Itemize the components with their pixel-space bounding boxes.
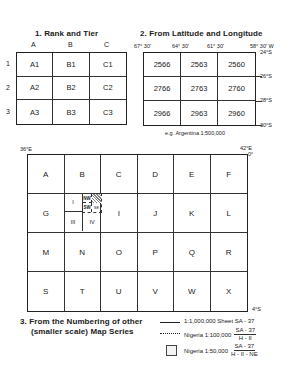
quadrant-iii: III [64,212,83,231]
tick-mark [256,76,262,77]
longitude-label: 67° 30' [134,43,151,49]
grid-cell: 2566 [144,53,181,77]
legend-dotted-line-icon [160,333,180,334]
row-label-2: 2 [6,84,10,91]
sub-quadrant-ne-hatched [92,194,101,203]
grid-cell: D [138,155,175,194]
longitude-label: 61° 30' [207,43,224,49]
grid-cell: B1 [53,53,89,77]
sheet-numbering-grid: A B C D E F G I J K L M N O P Q R S T U … [27,154,248,312]
tick-mark [256,125,262,126]
grid-cell: B [65,155,102,194]
grid-cell: A [28,155,65,194]
legend-item-2: Nigeria 1:100,000 SA - 37 H - II [184,327,256,342]
grid-cell: L [211,194,248,233]
grid-cell: C3 [90,100,126,124]
grid-cell: O [101,233,138,272]
grid-cell: 2563 [181,53,218,77]
row-label-3: 3 [6,108,10,115]
grid-cell: U [101,272,138,311]
grid-cell: 2760 [218,77,255,101]
column-label-c: C [104,41,109,48]
grid-cell: N [65,233,102,272]
section3-title-line2: (smaller scale) Map Series [31,327,134,336]
grid-cell: C2 [90,77,126,101]
grid-cell: Q [174,233,211,272]
latitude-label: 28°S [260,97,272,103]
corner-label-0: 0° [248,151,253,157]
grid-cell: X [211,272,248,311]
grid-cell: A1 [17,53,53,77]
grid-cell: P [138,233,175,272]
grid-cell: E [174,155,211,194]
tick-mark [256,101,262,102]
grid-cell: A3 [17,100,53,124]
grid-cell: G [28,194,65,233]
legend-fraction-3: SA - 37 H - II - NE [231,343,258,358]
latitude-label: 24°S [260,49,272,55]
grid-cell: C [101,155,138,194]
grid-cell: 2960 [218,101,255,125]
column-label-a: A [31,41,36,48]
fraction-denominator: H - II [239,335,252,342]
grid-cell: 2963 [181,101,218,125]
grid-cell: F [211,155,248,194]
grid-cell: A2 [17,77,53,101]
corner-label-4s: 4°S [252,306,261,312]
grid-cell: R [211,233,248,272]
longitude-label: 64° 30' [172,43,189,49]
grid-cell: 2763 [181,77,218,101]
legend-box-icon [166,345,177,356]
legend-label-1: 1:1,000,000 Sheet SA - 37 [184,318,254,324]
row-label-1: 1 [6,60,10,67]
grid-cell: 2966 [144,101,181,125]
grid-cell: B2 [53,77,89,101]
section2-caption: e.g. Argentina 1:500,000 [165,130,225,136]
quadrant-i: I [64,193,83,212]
fraction-numerator: SA - 37 [234,343,256,351]
rank-tier-grid: A1 B1 C1 A2 B2 C2 A3 B3 C3 [16,52,127,125]
legend-label-3: Nigeria 1:50,000 [184,348,228,354]
grid-cell: M [28,233,65,272]
lat-long-grid: 2566 2563 2560 2766 2763 2760 2966 2963 … [143,52,256,126]
section3-title-line1: 3. From the Numbering of other [20,317,143,326]
grid-cell: W [174,272,211,311]
fraction-numerator: SA - 37 [234,327,256,335]
fraction-denominator: H - II - NE [231,351,258,358]
grid-cell: J [138,194,175,233]
legend-label-2: Nigeria 1:100,000 [184,332,231,338]
grid-cell: 2766 [144,77,181,101]
section2-title: 2. From Latitude and Longitude [140,29,263,38]
corner-label-36e: 36°E [20,146,32,152]
section1-title: 1. Rank and Tier [35,29,98,38]
grid-cell: I [101,194,138,233]
grid-cell: K [174,194,211,233]
sub-quadrant-sw: SW [83,203,92,212]
sub-quadrant-se: SE [92,203,101,212]
grid-cell: 2560 [218,53,255,77]
grid-cell: V [138,272,175,311]
column-label-b: B [68,41,73,48]
grid-cell: S [28,272,65,311]
legend-solid-line-icon [160,322,180,323]
grid-cell: T [65,272,102,311]
grid-cell: C1 [90,53,126,77]
quadrant-iv: IV [83,212,101,231]
legend-fraction-2: SA - 37 H - II [234,327,256,342]
grid-cell: B3 [53,100,89,124]
sub-quadrant-nw: NW [83,194,92,203]
legend-item-3: Nigeria 1:50,000 SA - 37 H - II - NE [184,343,258,358]
